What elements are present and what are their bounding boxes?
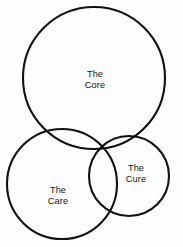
venn-circle-core bbox=[23, 7, 165, 149]
venn-circle-cure bbox=[89, 136, 169, 216]
venn-circle-care bbox=[7, 129, 117, 239]
venn-diagram-canvas bbox=[0, 0, 183, 247]
venn-diagram: The Core The Care The Cure bbox=[0, 0, 183, 247]
